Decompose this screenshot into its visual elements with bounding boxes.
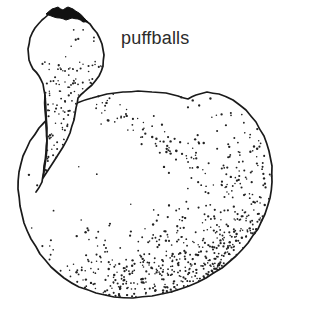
stipple-dot [96,104,97,105]
stipple-dot [159,273,161,275]
stipple-dot [228,253,230,255]
stipple-dot [195,154,197,156]
stipple-dot [219,234,221,236]
stipple-dot [192,167,194,169]
stipple-dot [252,194,254,196]
stipple-dot [221,167,223,169]
stipple-dot [56,148,58,150]
stipple-dot [82,64,83,65]
stipple-dot [193,242,195,244]
stipple-dot [257,165,259,167]
stipple-dot [97,268,99,270]
stipple-dot [159,140,161,142]
stipple-dot [108,261,110,263]
stipple-dot [141,143,143,145]
stipple-dot [173,271,175,273]
stipple-dot [253,209,255,211]
stipple-dot [108,225,110,227]
stipple-dot [130,230,132,232]
stipple-dot [62,127,64,129]
stipple-dot [239,230,241,232]
stipple-dot [183,285,185,287]
stipple-dot [200,251,202,253]
stipple-dot [156,220,158,222]
stipple-dot [105,102,107,104]
stipple-dot [176,289,178,291]
stipple-dot [156,270,158,272]
stipple-dot [260,217,262,219]
stipple-dot [204,173,206,175]
stipple-dot [126,287,128,289]
stipple-dot [142,261,144,263]
stipple-dot [202,169,204,171]
stipple-dot [59,90,61,92]
stipple-dot [214,218,216,220]
stipple-dot [84,231,86,233]
stipple-dot [77,83,79,85]
stipple-dot [137,241,139,243]
stipple-dot [192,258,194,260]
stipple-dot [112,259,113,260]
stipple-dot [171,265,173,267]
stipple-dot [92,64,94,66]
stipple-dot [160,267,162,269]
stipple-dot [129,235,131,237]
stipple-dot [233,228,235,230]
stipple-dot [196,278,198,280]
stipple-dot [185,201,187,203]
stipple-dot [213,252,215,254]
stipple-dot [153,115,155,117]
stipple-dot [151,136,153,138]
stipple-dot [77,38,79,40]
stipple-dot [131,259,133,261]
stipple-dot [253,145,255,147]
stipple-dot [226,184,228,186]
stipple-dot [62,110,63,111]
stipple-dot [173,280,175,282]
stipple-dot [223,255,225,257]
stipple-dot [234,236,236,238]
stipple-dot [58,84,60,86]
stipple-dot [81,269,83,271]
stipple-dot [56,141,58,143]
stipple-dot [262,166,264,168]
stipple-dot [219,265,221,267]
stipple-dot [78,166,80,168]
stipple-dot [192,271,194,273]
stipple-dot [223,262,225,264]
stipple-dot [55,83,57,85]
stipple-dot [179,270,181,272]
stipple-dot [143,122,144,123]
stipple-dot [190,265,192,267]
stipple-dot [119,285,121,287]
stipple-dot [119,104,121,106]
stipple-dot [67,114,69,116]
stipple-dot [268,198,270,200]
stipple-dot [207,192,209,194]
stipple-dot [233,218,235,220]
stipple-dot [56,104,58,106]
stipple-dot [52,103,53,104]
stipple-dot [185,155,187,157]
stipple-dot [230,176,232,178]
stipple-dot [190,177,192,179]
stipple-dot [228,193,230,195]
stipple-dot [223,231,225,233]
stipple-dot [212,249,214,251]
stipple-dot [205,185,207,187]
stipple-dot [73,29,75,31]
stipple-dot [216,115,218,117]
stipple-dot [165,255,167,257]
stipple-dot [239,151,241,153]
stipple-dot [164,284,166,286]
stipple-dot [178,208,180,210]
stipple-dot [72,68,74,70]
stipple-dot [101,66,103,68]
stipple-dot [36,184,38,186]
stipple-dot [198,104,200,106]
stipple-dot [193,158,195,160]
stipple-dot [208,271,210,273]
stipple-dot [131,124,133,126]
stipple-dot [189,280,191,282]
stipple-dot [171,244,173,246]
